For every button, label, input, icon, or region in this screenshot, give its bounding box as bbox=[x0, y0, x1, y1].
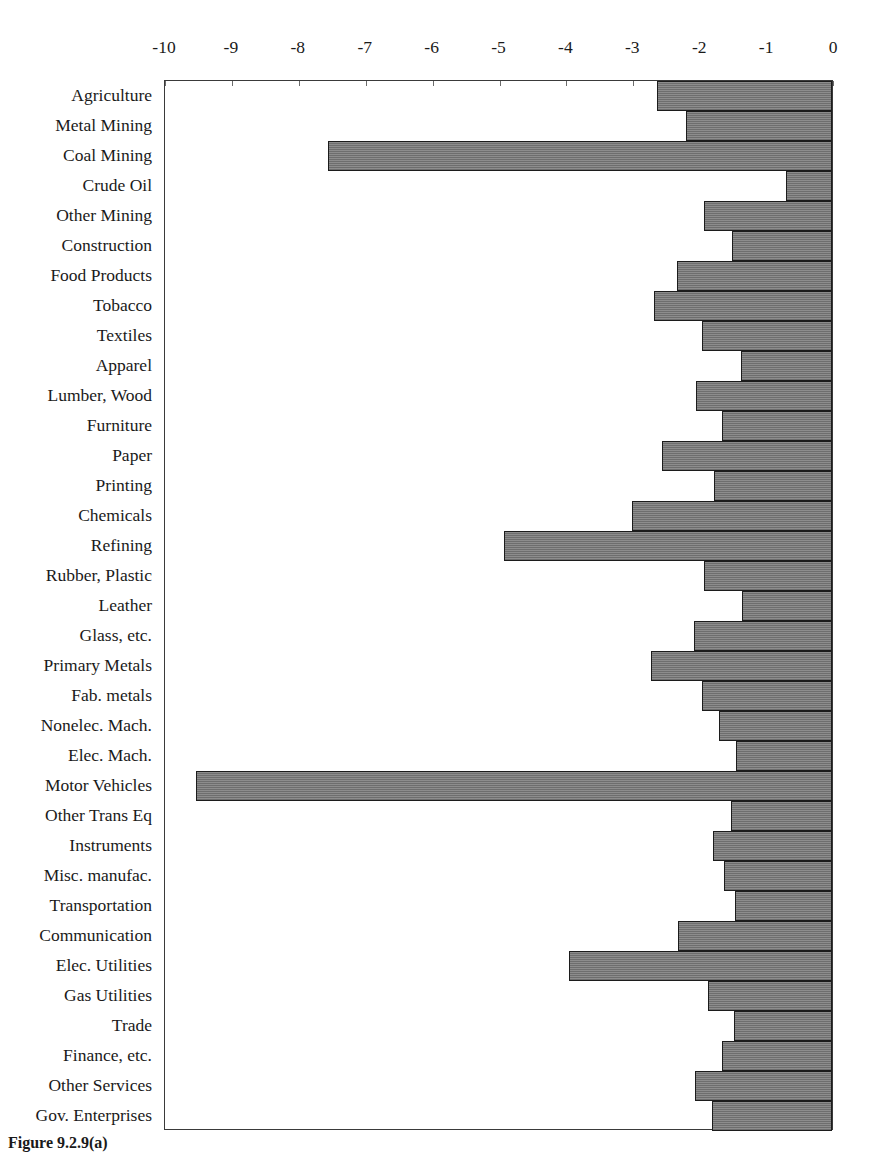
bar bbox=[632, 501, 832, 531]
category-label: Apparel bbox=[0, 355, 158, 375]
category-label: Metal Mining bbox=[0, 115, 158, 135]
x-tick-label: -10 bbox=[152, 36, 175, 58]
figure-bar-chart: -10-9-8-7-6-5-4-3-2-10 AgricultureMetal … bbox=[0, 0, 873, 1157]
figure-caption: Figure 9.2.9(a) bbox=[8, 1134, 108, 1152]
bar bbox=[722, 1041, 832, 1071]
bar bbox=[702, 681, 832, 711]
bar bbox=[735, 891, 832, 921]
x-tick-mark bbox=[833, 81, 834, 86]
bar bbox=[678, 921, 832, 951]
x-tick-label: -7 bbox=[357, 36, 372, 58]
bar bbox=[736, 741, 832, 771]
category-label: Food Products bbox=[0, 265, 158, 285]
x-tick-label: -8 bbox=[291, 36, 306, 58]
category-label: Trade bbox=[0, 1015, 158, 1035]
x-tick-label: 0 bbox=[829, 36, 838, 58]
category-label: Chemicals bbox=[0, 505, 158, 525]
bar bbox=[657, 81, 832, 111]
category-label: Crude Oil bbox=[0, 175, 158, 195]
category-label: Paper bbox=[0, 445, 158, 465]
plot-area bbox=[164, 80, 833, 1130]
bar bbox=[704, 561, 832, 591]
category-label: Motor Vehicles bbox=[0, 775, 158, 795]
category-label: Nonelec. Mach. bbox=[0, 715, 158, 735]
bar bbox=[654, 291, 832, 321]
category-label: Refining bbox=[0, 535, 158, 555]
category-label: Printing bbox=[0, 475, 158, 495]
category-label: Other Mining bbox=[0, 205, 158, 225]
bar bbox=[708, 981, 832, 1011]
category-label: Lumber, Wood bbox=[0, 385, 158, 405]
category-label: Coal Mining bbox=[0, 145, 158, 165]
category-label: Communication bbox=[0, 925, 158, 945]
bar bbox=[662, 441, 832, 471]
bar bbox=[734, 1011, 832, 1041]
category-label: Instruments bbox=[0, 835, 158, 855]
category-label: Elec. Utilities bbox=[0, 955, 158, 975]
bar bbox=[724, 861, 832, 891]
category-label: Other Trans Eq bbox=[0, 805, 158, 825]
category-label: Gas Utilities bbox=[0, 985, 158, 1005]
x-tick-label: -4 bbox=[558, 36, 573, 58]
category-label: Glass, etc. bbox=[0, 625, 158, 645]
bar bbox=[786, 171, 832, 201]
bar bbox=[702, 321, 832, 351]
bar bbox=[686, 111, 832, 141]
category-label: Misc. manufac. bbox=[0, 865, 158, 885]
bar bbox=[714, 471, 832, 501]
bar bbox=[731, 801, 832, 831]
bar bbox=[719, 711, 832, 741]
category-label: Agriculture bbox=[0, 85, 158, 105]
category-label: Primary Metals bbox=[0, 655, 158, 675]
bar bbox=[732, 231, 832, 261]
category-label: Furniture bbox=[0, 415, 158, 435]
bar bbox=[328, 141, 832, 171]
x-tick-label: -1 bbox=[759, 36, 774, 58]
bar bbox=[694, 621, 832, 651]
x-axis-tick-labels: -10-9-8-7-6-5-4-3-2-10 bbox=[164, 36, 833, 62]
bar bbox=[696, 381, 832, 411]
bar bbox=[713, 831, 832, 861]
bar bbox=[569, 951, 832, 981]
bar bbox=[677, 261, 832, 291]
bar bbox=[741, 351, 832, 381]
x-tick-label: -3 bbox=[625, 36, 640, 58]
x-tick-label: -2 bbox=[692, 36, 707, 58]
category-label: Transportation bbox=[0, 895, 158, 915]
bar bbox=[695, 1071, 832, 1101]
category-label: Elec. Mach. bbox=[0, 745, 158, 765]
category-label: Tobacco bbox=[0, 295, 158, 315]
x-tick-label: -9 bbox=[224, 36, 239, 58]
category-label: Fab. metals bbox=[0, 685, 158, 705]
bar bbox=[722, 411, 832, 441]
bar-series bbox=[165, 81, 832, 1129]
category-label: Rubber, Plastic bbox=[0, 565, 158, 585]
category-label: Leather bbox=[0, 595, 158, 615]
bar bbox=[704, 201, 832, 231]
category-label: Gov. Enterprises bbox=[0, 1105, 158, 1125]
bar bbox=[651, 651, 832, 681]
category-label: Construction bbox=[0, 235, 158, 255]
x-tick-label: -6 bbox=[424, 36, 439, 58]
category-label: Other Services bbox=[0, 1075, 158, 1095]
bar bbox=[712, 1101, 832, 1131]
category-label: Textiles bbox=[0, 325, 158, 345]
category-label: Finance, etc. bbox=[0, 1045, 158, 1065]
bar bbox=[504, 531, 832, 561]
x-tick-label: -5 bbox=[491, 36, 506, 58]
bar bbox=[742, 591, 832, 621]
bar bbox=[196, 771, 832, 801]
